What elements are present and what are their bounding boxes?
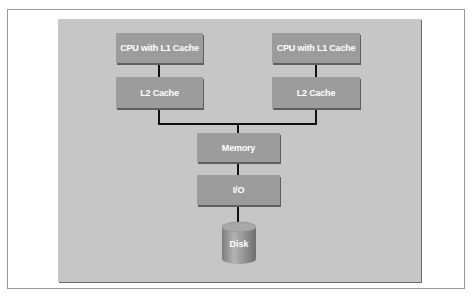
connector-cpu-l2-left [158, 63, 160, 77]
cpu-l1-cache-right: CPU with L1 Cache [272, 33, 360, 63]
l2-cache-left: L2 Cache [116, 77, 203, 108]
connector-bus-memory [237, 123, 239, 133]
l2-cache-right: L2 Cache [272, 77, 360, 108]
disk-label: Disk [221, 239, 257, 249]
disk-cylinder: Disk [221, 221, 257, 265]
connector-memory-io [237, 163, 239, 175]
memory-box: Memory [197, 133, 280, 162]
io-box: I/O [197, 175, 280, 205]
connector-cpu-l2-right [315, 63, 317, 77]
cpu-l1-cache-left: CPU with L1 Cache [116, 33, 203, 63]
